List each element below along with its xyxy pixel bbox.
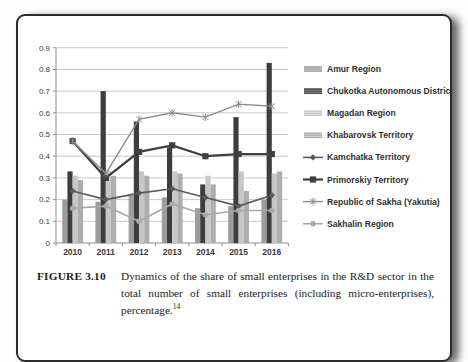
y-tick-label: 0.7 (39, 87, 51, 96)
bar-amur-region-2016 (261, 200, 266, 243)
bar-khabarovsk-territory-2015 (244, 191, 249, 243)
legend-label-kamchatka-territory: Kamchatka Territory (327, 152, 410, 162)
y-tick-label: 0.5 (39, 130, 51, 139)
bar-amur-region-2011 (95, 202, 100, 243)
legend-label-chukotka-autonomous-district: Chukotka Autonomous District (327, 86, 450, 96)
legend-swatch-amur-region (304, 66, 322, 72)
marker-sakhalin-region-2015 (236, 208, 241, 213)
legend-swatch-chukotka-autonomous-district (304, 88, 322, 94)
marker-sakhalin-region-2010 (70, 206, 75, 211)
marker-primorskiy-territory-2015 (236, 151, 242, 157)
bar-khabarovsk-territory-2012 (144, 176, 149, 243)
marker-primorskiy-territory-2014 (202, 153, 208, 159)
legend-marker-primorskiy-territory (310, 176, 316, 182)
legend-label-amur-region: Amur Region (327, 64, 381, 74)
bar-chukotka-autonomous-district-2015 (233, 117, 238, 243)
caption-text: Dynamics of the share of small enterpris… (121, 270, 434, 316)
y-tick-label: 0.1 (39, 217, 51, 226)
legend-label-primorskiy-territory: Primorskiy Territory (327, 175, 409, 185)
legend-marker-sakhalin-region (310, 221, 315, 226)
figure-caption: FIGURE 3.10Dynamics of the share of smal… (37, 268, 434, 320)
marker-primorskiy-territory-2013 (169, 142, 175, 148)
bar-magadan-region-2014 (205, 176, 210, 243)
bar-magadan-region-2013 (172, 171, 177, 243)
marker-sakhalin-region-2011 (103, 203, 108, 208)
x-tick-label-2016: 2016 (262, 247, 281, 257)
marker-sakhalin-region-2014 (203, 212, 208, 217)
y-tick-label: 0.6 (39, 109, 51, 118)
figure-label: FIGURE 3.10 (37, 268, 106, 285)
x-tick-label-2010: 2010 (63, 247, 82, 257)
marker-sakhalin-region-2016 (269, 208, 274, 213)
marker-primorskiy-territory-2012 (136, 149, 142, 155)
y-tick-label: 0 (46, 239, 51, 248)
legend-label-khabarovsk-territory: Khabarovsk Territory (327, 130, 414, 140)
x-tick-label-2012: 2012 (130, 247, 149, 257)
bar-khabarovsk-territory-2016 (277, 171, 282, 243)
chart-svg: 00.10.20.30.40.50.60.70.80.9201020112012… (18, 16, 450, 268)
legend-marker-kamchatka-territory (310, 154, 316, 160)
legend-label-republic-of-sakha-yakutia: Republic of Sakha (Yakutia) (327, 197, 440, 207)
marker-sakhalin-region-2012 (136, 219, 141, 224)
bar-amur-region-2013 (162, 197, 167, 243)
marker-sakhalin-region-2013 (170, 201, 175, 206)
x-tick-label-2011: 2011 (97, 247, 116, 257)
y-tick-label: 0.2 (39, 195, 51, 204)
bar-chukotka-autonomous-district-2013 (167, 148, 172, 243)
bar-chukotka-autonomous-district-2012 (134, 121, 139, 243)
bar-chukotka-autonomous-district-2011 (101, 91, 106, 243)
y-tick-label: 0.3 (39, 174, 51, 183)
bar-magadan-region-2012 (139, 171, 144, 243)
bar-khabarovsk-territory-2013 (177, 174, 182, 243)
x-tick-label-2013: 2013 (163, 247, 182, 257)
footnote-ref: 14 (173, 303, 181, 312)
legend-label-sakhalin-region: Sakhalin Region (327, 219, 394, 229)
page-card: 00.10.20.30.40.50.60.70.80.9201020112012… (16, 14, 452, 362)
x-tick-label-2014: 2014 (196, 247, 215, 257)
y-tick-label: 0.8 (39, 65, 51, 74)
y-tick-label: 0.4 (39, 152, 51, 161)
legend-label-magadan-region: Magadan Region (327, 108, 396, 118)
y-tick-label: 0.9 (39, 44, 51, 53)
legend-swatch-khabarovsk-territory (304, 133, 322, 139)
marker-primorskiy-territory-2016 (269, 151, 275, 157)
bar-khabarovsk-territory-2010 (78, 180, 83, 243)
legend-swatch-magadan-region (304, 110, 322, 116)
x-tick-label-2015: 2015 (229, 247, 248, 257)
chart-area: 00.10.20.30.40.50.60.70.80.9201020112012… (18, 16, 450, 268)
bar-amur-region-2010 (62, 200, 67, 243)
